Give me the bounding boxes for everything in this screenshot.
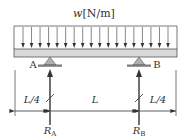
arrow-head-icon (149, 43, 153, 48)
dim-label-left: L/4 (23, 94, 40, 105)
distributed-load (14, 26, 177, 49)
support-a (38, 57, 62, 67)
arrow-head-icon (124, 43, 128, 48)
arrow-head-icon (55, 43, 59, 48)
arrow-head-icon (47, 43, 51, 48)
reaction-arrow-a (46, 69, 54, 125)
dim-label-right: L/4 (149, 94, 166, 105)
arrow-head-icon (30, 43, 34, 48)
load-arrows (21, 27, 170, 48)
support-b (127, 57, 151, 67)
beam-diagram: w[N/m] A B L/4 L L (0, 0, 187, 140)
arrow-head-icon (106, 43, 110, 48)
arrow-head-icon (81, 43, 85, 48)
arrow-head-icon (21, 43, 25, 48)
support-b-label: B (153, 59, 160, 70)
arrow-head-icon (166, 43, 170, 48)
reaction-label-b: RB (132, 125, 146, 138)
beam (14, 49, 177, 57)
arrow-head-icon (72, 43, 76, 48)
load-unit: [N/m] (83, 7, 115, 20)
arrow-head-icon (64, 43, 68, 48)
arrow-head-icon (89, 43, 93, 48)
arrow-head-icon (98, 43, 102, 48)
dim-label-middle: L (91, 94, 99, 105)
reaction-label-a: RA (43, 125, 58, 138)
load-label: w[N/m] (73, 7, 115, 20)
arrow-head-icon (158, 43, 162, 48)
arrow-head-icon (38, 43, 42, 48)
arrow-head-icon (115, 43, 119, 48)
arrow-head-icon (141, 43, 145, 48)
arrow-head-icon (132, 43, 136, 48)
support-a-label: A (28, 59, 37, 70)
reaction-arrow-b (135, 69, 143, 125)
